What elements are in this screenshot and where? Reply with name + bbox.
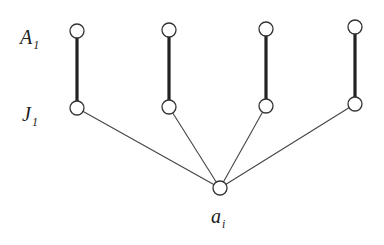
- node-a-3: [259, 22, 273, 36]
- edge-j4-hub: [220, 104, 355, 188]
- node-j-1: [70, 101, 84, 115]
- label-a1: A1: [18, 26, 39, 52]
- node-j-3: [259, 99, 273, 113]
- edge-j2-hub: [169, 107, 220, 188]
- graph-diagram: A1 J1 ai: [0, 0, 384, 245]
- node-a-4: [348, 20, 362, 34]
- edge-j1-hub: [77, 108, 220, 188]
- node-a-1: [70, 24, 84, 38]
- node-j-4: [348, 97, 362, 111]
- label-j1: J1: [22, 103, 38, 129]
- node-a-2: [162, 23, 176, 37]
- node-hub: [213, 181, 227, 195]
- label-hub: ai: [211, 205, 225, 231]
- node-j-2: [162, 100, 176, 114]
- edge-j3-hub: [220, 106, 266, 188]
